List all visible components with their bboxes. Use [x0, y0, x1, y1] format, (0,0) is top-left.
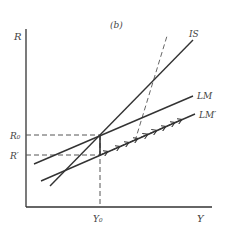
lmprime-label: LM′	[198, 110, 216, 120]
y0-label: Y₀	[93, 214, 103, 224]
x-axis-label: Y	[197, 213, 205, 224]
lm-curve	[34, 96, 193, 164]
panel-label: (b)	[110, 20, 123, 30]
adjustment-arrows	[100, 120, 182, 156]
r0-label: R₀	[9, 131, 21, 141]
steep-dashed-line	[135, 36, 167, 141]
is-curve	[50, 40, 193, 186]
rprime-label: R′	[9, 151, 19, 161]
islm-diagram: (b) R Y R₀ R′ Y₀ IS LM LM′	[0, 0, 225, 234]
lm-label: LM	[196, 91, 213, 101]
y-axis-label: R	[13, 31, 22, 42]
is-label: IS	[188, 29, 199, 39]
